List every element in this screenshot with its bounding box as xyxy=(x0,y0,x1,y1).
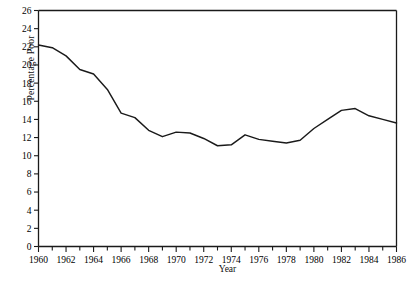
y-axis-tick-label: 20 xyxy=(22,60,32,70)
x-axis-tick-label: 1960 xyxy=(29,255,48,265)
x-axis-tick-label: 1970 xyxy=(167,255,186,265)
x-axis-tick-label: 1976 xyxy=(249,255,268,265)
chart-container: Percentage Poor 024681012141618202224261… xyxy=(0,0,409,283)
x-axis-tick-label: 1984 xyxy=(359,255,378,265)
x-axis-tick-label: 1974 xyxy=(222,255,241,265)
data-series-line xyxy=(39,45,397,146)
y-axis-tick-label: 2 xyxy=(27,224,32,234)
y-axis-tick-label: 18 xyxy=(22,79,32,89)
x-axis-tick-label: 1980 xyxy=(304,255,323,265)
y-axis-tick-label: 0 xyxy=(27,242,32,252)
x-axis-tick-label: 1966 xyxy=(112,255,131,265)
y-axis-tick-label: 6 xyxy=(27,187,32,197)
x-axis-title: Year xyxy=(0,264,409,274)
x-axis-tick-label: 1978 xyxy=(277,255,296,265)
line-chart-plot: 0246810121416182022242619601962196419661… xyxy=(0,0,409,283)
y-axis-tick-label: 4 xyxy=(27,206,32,216)
x-axis-tick-label: 1968 xyxy=(139,255,158,265)
y-axis-tick-label: 10 xyxy=(22,151,32,161)
y-axis-tick-label: 24 xyxy=(22,24,32,34)
y-axis-tick-label: 14 xyxy=(22,115,32,125)
y-axis-tick-label: 16 xyxy=(22,97,32,107)
y-axis-tick-label: 12 xyxy=(22,133,32,143)
x-axis-title-text: Year xyxy=(219,264,237,274)
x-axis-tick-label: 1962 xyxy=(57,255,76,265)
x-axis-tick-label: 1964 xyxy=(84,255,103,265)
x-axis-tick-label: 1972 xyxy=(194,255,213,265)
x-axis-tick-label: 1982 xyxy=(332,255,351,265)
y-axis-tick-label: 8 xyxy=(27,169,32,179)
y-axis-tick-label: 26 xyxy=(22,6,32,16)
x-axis-tick-label: 1986 xyxy=(387,255,406,265)
y-axis-tick-label: 22 xyxy=(22,42,32,52)
